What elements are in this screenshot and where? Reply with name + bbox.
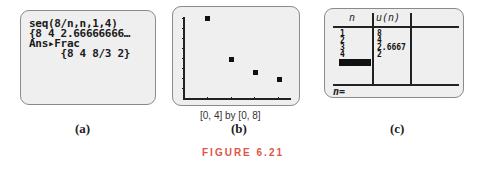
column-header-n: n bbox=[349, 12, 355, 23]
caption-c: (c) bbox=[390, 121, 404, 137]
x-axis bbox=[183, 98, 291, 100]
header-divider bbox=[333, 26, 459, 28]
column-divider bbox=[372, 13, 374, 85]
caption-a: (a) bbox=[75, 121, 90, 137]
cell-u: 2 bbox=[377, 51, 382, 58]
data-point bbox=[253, 70, 258, 75]
caption-b: (b) bbox=[231, 121, 247, 137]
result-fraction: {8 4 8/3 2} bbox=[29, 49, 130, 59]
column-divider bbox=[410, 13, 412, 85]
figure-title: FIGURE 6.21 bbox=[202, 147, 284, 158]
calculator-table-screen: n u(n) 1 2 3 4 8 4 2.6667 2 n= bbox=[324, 8, 464, 98]
entry-line: n= bbox=[333, 86, 345, 97]
calculator-graph-screen bbox=[172, 6, 300, 106]
window-label: [0, 4] by [0, 8] bbox=[200, 110, 261, 121]
cell-n: 4 bbox=[340, 51, 345, 58]
calculator-home-screen: seq(8/n,n,1,4) {8 4 2.66666666… Ans▸Frac… bbox=[20, 10, 156, 105]
data-point bbox=[229, 57, 234, 62]
footer-divider bbox=[333, 84, 459, 86]
column-header-un: u(n) bbox=[376, 12, 400, 23]
data-point bbox=[205, 16, 210, 21]
table-cursor bbox=[339, 59, 371, 66]
data-point bbox=[277, 77, 282, 82]
